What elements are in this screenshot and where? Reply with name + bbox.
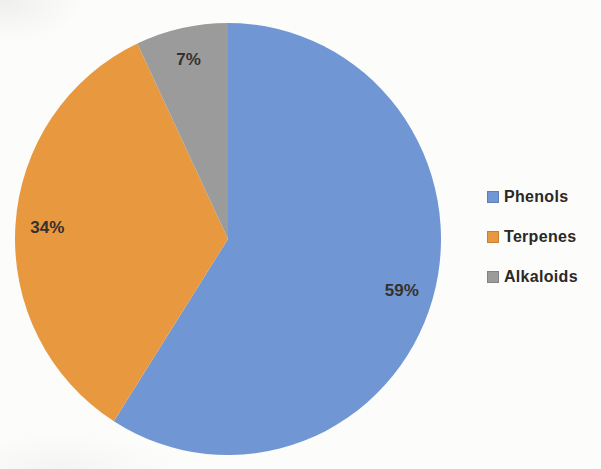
data-label-phenols: 59% [385,281,419,300]
legend-swatch-phenols [487,191,499,203]
legend-item-terpenes: Terpenes [487,228,578,246]
legend-label-alkaloids: Alkaloids [504,268,578,286]
data-label-alkaloids: 7% [176,50,201,69]
legend-item-alkaloids: Alkaloids [487,268,578,286]
legend-swatch-terpenes [487,231,499,243]
data-label-terpenes: 34% [30,218,64,237]
legend-label-terpenes: Terpenes [504,228,576,246]
legend-item-phenols: Phenols [487,188,578,206]
legend-swatch-alkaloids [487,271,499,283]
pie-chart-figure: 59%34%7% Phenols Terpenes Alkaloids [0,0,601,469]
legend-label-phenols: Phenols [504,188,568,206]
chart-legend: Phenols Terpenes Alkaloids [487,188,578,286]
